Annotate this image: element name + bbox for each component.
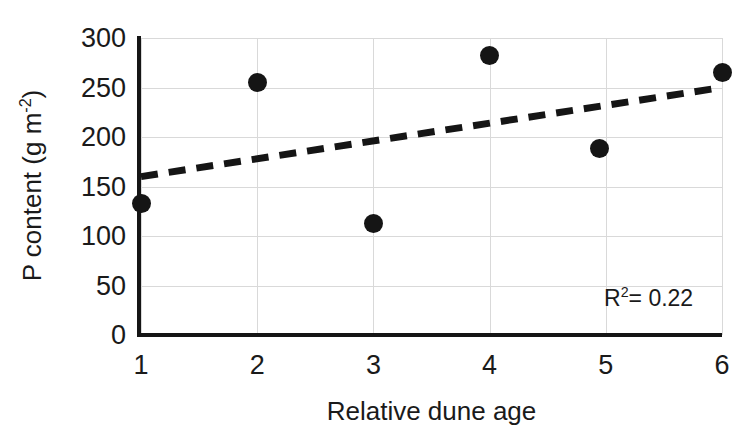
r-squared-annotation: R2= 0.22 bbox=[604, 285, 693, 312]
y-axis-title: P content (g m-2) bbox=[17, 56, 48, 316]
data-point bbox=[132, 194, 151, 213]
y-axis-line bbox=[137, 36, 141, 337]
y-axis-tick-label: 50 bbox=[96, 272, 126, 299]
data-point bbox=[713, 63, 732, 82]
y-axis-title-main: P content (g m bbox=[17, 113, 47, 282]
x-axis-tick-label: 2 bbox=[250, 352, 265, 379]
x-axis-line bbox=[137, 333, 722, 337]
r-squared-value: = 0.22 bbox=[629, 285, 694, 311]
y-axis-title-superscript: -2 bbox=[16, 98, 34, 112]
r-squared-exponent: 2 bbox=[621, 284, 629, 300]
y-axis-tick-label: 250 bbox=[81, 74, 126, 101]
x-axis-tick-label: 3 bbox=[366, 352, 381, 379]
x-axis-tick-label: 5 bbox=[598, 352, 613, 379]
gridline-vertical bbox=[722, 38, 723, 335]
scatter-chart-figure: 050100150200250300 123456 P content (g m… bbox=[0, 0, 749, 446]
y-axis-tick-label: 0 bbox=[111, 322, 126, 349]
data-point bbox=[364, 214, 383, 233]
x-axis-title: Relative dune age bbox=[141, 396, 722, 427]
x-axis-tick-label: 6 bbox=[714, 352, 729, 379]
x-axis-tick-label: 4 bbox=[482, 352, 497, 379]
x-axis-tick-label: 1 bbox=[133, 352, 148, 379]
y-axis-tick-label: 150 bbox=[81, 173, 126, 200]
y-axis-tick-label: 300 bbox=[81, 25, 126, 52]
y-axis-tick-label: 100 bbox=[81, 223, 126, 250]
y-axis-tick-label: 200 bbox=[81, 124, 126, 151]
r-squared-symbol: R bbox=[604, 285, 621, 311]
y-axis-title-tail: ) bbox=[17, 90, 47, 99]
data-point bbox=[248, 73, 267, 92]
